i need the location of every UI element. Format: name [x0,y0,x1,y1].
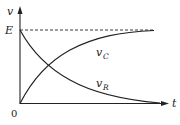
x-axis-arrow-icon [161,101,169,106]
y-axis-label: v [7,5,14,18]
svg-text:C: C [103,52,109,61]
rc-voltage-diagram: v E t 0 v C v R [0,0,180,125]
vr-label: v R [96,77,109,92]
svg-text:v: v [96,77,103,90]
svg-text:v: v [96,46,103,59]
curve-vc [20,31,154,104]
vc-label: v C [96,46,109,61]
asymptote-label: E [4,24,13,37]
x-axis-label: t [172,97,177,110]
svg-text:R: R [102,83,109,92]
y-axis-arrow-icon [18,6,23,14]
origin-label: 0 [11,108,17,119]
